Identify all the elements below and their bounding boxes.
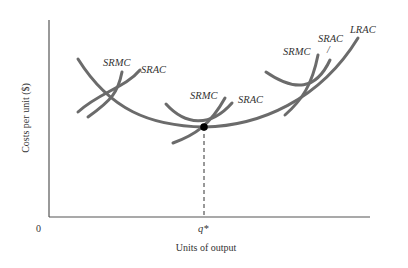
curves bbox=[78, 38, 358, 143]
label-srmc-right: SRMC bbox=[283, 46, 311, 57]
label-srac-left: SRAC bbox=[141, 64, 167, 75]
label-srmc-left: SRMC bbox=[103, 57, 131, 68]
x-axis-label: Units of output bbox=[176, 242, 237, 253]
y-axis-label: Costs per unit ($) bbox=[20, 83, 32, 153]
label-srac-right-pointer: / bbox=[326, 44, 331, 55]
srac-left-curve bbox=[78, 70, 140, 112]
q-star-label: q* bbox=[198, 223, 209, 234]
label-srmc-mid: SRMC bbox=[190, 90, 218, 101]
label-srac-right: SRAC bbox=[318, 33, 344, 44]
label-lrac: LRAC bbox=[349, 24, 377, 35]
label-srac-mid: SRAC bbox=[238, 94, 264, 105]
lrac-minimum-point bbox=[200, 123, 208, 131]
origin-label: 0 bbox=[36, 223, 41, 234]
cost-curves-chart: SRMC SRAC SRMC SRAC SRMC SRAC / LRAC 0 q… bbox=[0, 0, 408, 268]
